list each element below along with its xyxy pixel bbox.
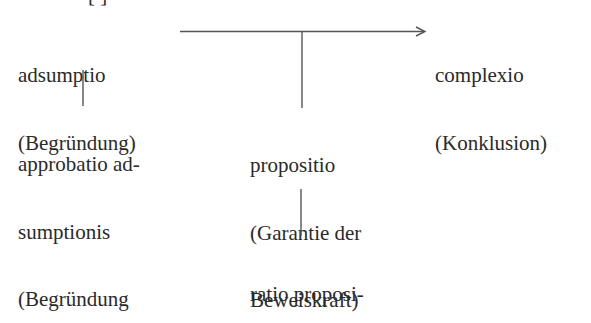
diagram-connectors bbox=[0, 0, 591, 323]
